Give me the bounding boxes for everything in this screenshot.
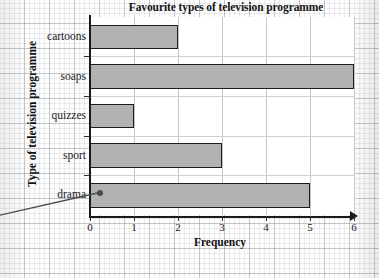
bar-sport <box>90 143 222 168</box>
x-tick-label-0: 0 <box>80 221 100 233</box>
annotation-dot-icon <box>97 190 103 196</box>
gridline-band-4 <box>90 175 355 176</box>
x-tick-label-2: 2 <box>168 221 188 233</box>
annotation-leader-line <box>0 178 110 218</box>
x-tick-label-4: 4 <box>256 221 276 233</box>
gridline-x-6 <box>354 17 355 215</box>
gridline-x-5 <box>310 17 311 215</box>
gridline-band-3 <box>90 136 355 137</box>
plot-area <box>90 17 355 215</box>
x-tick-label-3: 3 <box>212 221 232 233</box>
bar-cartoons <box>90 25 178 49</box>
gridline-band-2 <box>90 96 355 97</box>
bar-drama <box>90 183 310 208</box>
chart-title: Favourite types of television programme <box>92 0 360 16</box>
gridline-band-1 <box>90 56 355 57</box>
x-axis-title: Frequency <box>140 236 300 248</box>
bar-quizzes <box>90 104 134 128</box>
x-tick-label-6: 6 <box>344 221 364 233</box>
x-tick-label-1: 1 <box>124 221 144 233</box>
bar-soaps <box>90 64 354 89</box>
x-tick-label-5: 5 <box>300 221 320 233</box>
